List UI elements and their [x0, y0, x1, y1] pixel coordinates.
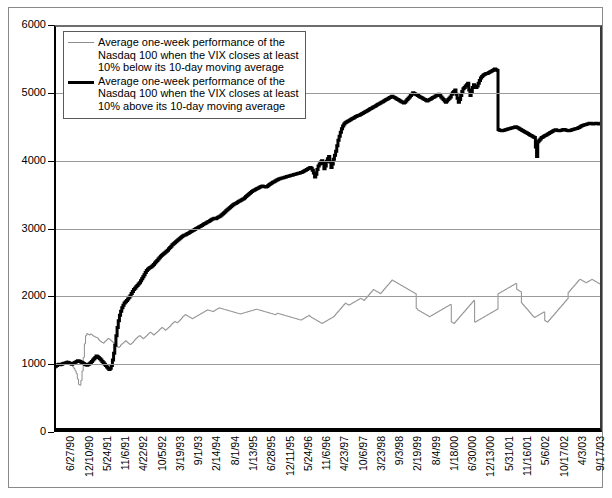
y-axis-label-1000: 1000	[22, 358, 46, 369]
y-axis-label-2000: 2000	[22, 290, 46, 301]
x-axis-label-12: 12/11/95	[285, 436, 296, 476]
x-axis-label-19: 2/19/99	[412, 436, 423, 471]
chart-figure: 0100020003000400050006000 6/27/9012/10/9…	[0, 0, 612, 498]
chart-legend: Average one-week performance of the Nasd…	[63, 31, 306, 119]
y-axis-label-4000: 4000	[22, 155, 46, 166]
y-axis-label-5000: 5000	[22, 87, 46, 98]
x-axis-label-15: 4/23/97	[339, 436, 350, 471]
x-axis-label-24: 5/31/01	[504, 436, 515, 471]
legend-label-below: Average one-week performance of the Nasd…	[98, 36, 299, 74]
x-axis-label-23: 12/13/00	[485, 436, 496, 477]
x-axis-label-26: 5/6/02	[540, 436, 551, 465]
y-axis-label-3000: 3000	[22, 223, 46, 234]
legend-entry-above: Average one-week performance of the Nasd…	[68, 75, 299, 113]
x-axis-label-2: 5/24/91	[102, 436, 113, 471]
x-axis-label-16: 10/6/97	[358, 436, 369, 471]
x-axis-label-11: 6/28/95	[266, 436, 277, 471]
x-axis-label-27: 10/17/02	[559, 436, 570, 477]
x-axis-label-18: 9/3/98	[394, 436, 405, 465]
x-axis-label-20: 8/4/99	[431, 436, 442, 465]
legend-swatch-thick-line	[68, 81, 94, 84]
x-axis-label-17: 3/23/98	[376, 436, 387, 471]
x-axis-label-7: 9/1/93	[193, 436, 204, 465]
x-axis-label-0: 6/27/90	[65, 436, 76, 471]
y-tick-0	[48, 432, 54, 433]
x-axis-label-29: 9/17/03	[595, 436, 606, 471]
x-axis-label-22: 6/30/00	[467, 436, 478, 471]
x-axis-label-1: 12/10/90	[84, 436, 95, 477]
x-axis-label-14: 11/6/96	[321, 436, 332, 470]
x-axis-label-10: 1/13/95	[248, 436, 259, 471]
x-axis-label-13: 5/24/96	[303, 436, 314, 471]
x-axis-label-3: 11/6/91	[120, 436, 131, 470]
legend-label-above: Average one-week performance of the Nasd…	[98, 75, 299, 113]
x-axis-label-8: 2/14/94	[211, 436, 222, 471]
x-axis-label-5: 10/5/92	[157, 436, 168, 471]
x-axis-label-6: 3/19/93	[175, 436, 186, 471]
x-axis-label-4: 4/22/92	[138, 436, 149, 471]
x-axis-label-21: 1/18/00	[449, 436, 460, 471]
x-axis-label-9: 8/1/94	[230, 436, 241, 465]
y-axis-label-6000: 6000	[22, 19, 46, 30]
x-axis-label-25: 11/16/01	[522, 436, 533, 476]
legend-swatch-thin-line	[68, 42, 94, 43]
y-axis-label-0: 0	[40, 426, 46, 437]
legend-entry-below: Average one-week performance of the Nasd…	[68, 36, 299, 74]
y-axis-labels: 0100020003000400050006000	[0, 25, 46, 432]
x-axis-labels: 6/27/9012/10/905/24/9111/6/914/22/9210/5…	[54, 436, 602, 492]
x-axis-label-28: 4/3/03	[577, 436, 588, 465]
